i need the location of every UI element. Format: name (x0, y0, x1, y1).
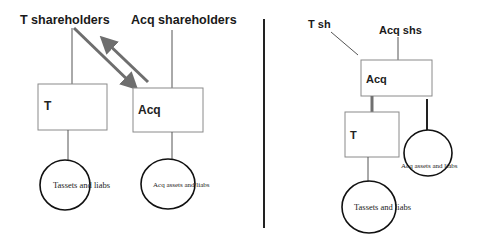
right-diagram: T sh Acq shs Acq T Tassets and liabs Acq… (308, 18, 458, 233)
t-assets-label: Tassets and liabs (53, 180, 110, 190)
diagram-canvas: T shareholders Acq shareholders T Acq Ta… (0, 0, 489, 247)
acq-assets-label-right: Acq assets and liabs (401, 162, 458, 170)
acq-shs-label: Acq shs (379, 24, 422, 36)
t-shareholders-label: T shareholders (20, 13, 110, 27)
acq-assets-label: Acq assets and liabs (153, 181, 210, 189)
t-sh-label: T sh (308, 18, 331, 30)
t-sh-connector (331, 32, 358, 55)
acq-shareholders-label: Acq shareholders (131, 13, 237, 27)
left-diagram: T shareholders Acq shareholders T Acq Ta… (20, 13, 237, 210)
t-assets-label-right: Tassets and liabs (354, 202, 411, 212)
t-box-label-right: T (350, 129, 357, 141)
arrow-t-shareholders-to-acq (74, 28, 134, 86)
acq-box-label: Acq (138, 103, 161, 117)
acq-box-label-right: Acq (366, 73, 387, 85)
arrow-acq-to-t-shareholders (104, 40, 148, 82)
t-box-label: T (44, 99, 52, 113)
